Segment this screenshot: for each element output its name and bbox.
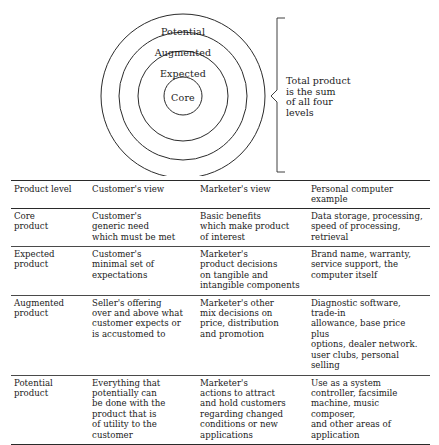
ring-label-core: Core bbox=[171, 92, 195, 103]
total-product-diagram: Potential Augmented Expected Core Total … bbox=[0, 0, 439, 176]
column-header-product-level: Product level bbox=[11, 181, 89, 209]
cell-pc-example: Use as a system controller, facsimile ma… bbox=[308, 375, 430, 444]
bracket-caption-text: Total product is the sum of all four lev… bbox=[286, 76, 351, 118]
table-row: Expected product Customer's minimal set … bbox=[11, 247, 430, 296]
cell-product-level: Augmented product bbox=[11, 295, 89, 375]
cell-customers-view: Everything that potentially can be done … bbox=[89, 375, 197, 444]
table-row: Augmented product Seller's offering over… bbox=[11, 295, 430, 375]
ring-label-expected: Expected bbox=[160, 68, 206, 79]
cell-product-level: Potential product bbox=[11, 375, 89, 444]
cell-customers-view: Customer's minimal set of expectations bbox=[89, 247, 197, 296]
cell-customers-view: Customer's generic need which must be me… bbox=[89, 208, 197, 246]
cell-pc-example: Data storage, processing, speed of proce… bbox=[308, 208, 430, 246]
cell-marketers-view: Basic benefits which make product of int… bbox=[197, 208, 308, 246]
ring-label-augmented: Augmented bbox=[155, 47, 212, 58]
cell-pc-example: Diagnostic software, trade-in allowance,… bbox=[308, 295, 430, 375]
cell-marketers-view: Marketer's product decisions on tangible… bbox=[197, 247, 308, 296]
cell-marketers-view: Marketer's other mix decisions on price,… bbox=[197, 295, 308, 375]
table-header-row: Product level Customer's view Marketer's… bbox=[11, 181, 430, 209]
ring-label-potential: Potential bbox=[161, 26, 205, 37]
cell-product-level: Core product bbox=[11, 208, 89, 246]
cell-customers-view: Seller's offering over and above what cu… bbox=[89, 295, 197, 375]
concentric-circles-graphic bbox=[0, 0, 439, 176]
table-row: Potential product Everything that potent… bbox=[11, 375, 430, 444]
column-header-customers-view: Customer's view bbox=[89, 181, 197, 209]
bracket-shape bbox=[271, 18, 285, 172]
column-header-pc-example: Personal computer example bbox=[308, 181, 430, 209]
cell-pc-example: Brand name, warranty, service support, t… bbox=[308, 247, 430, 296]
product-levels-table: Product level Customer's view Marketer's… bbox=[11, 180, 430, 445]
table-row: Core product Customer's generic need whi… bbox=[11, 208, 430, 246]
column-header-marketers-view: Marketer's view bbox=[197, 181, 308, 209]
cell-product-level: Expected product bbox=[11, 247, 89, 296]
cell-marketers-view: Marketer's actions to attract and hold c… bbox=[197, 375, 308, 444]
